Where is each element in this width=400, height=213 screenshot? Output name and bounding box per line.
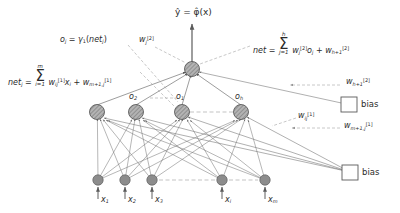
net-sigma: h Σ j=1	[279, 32, 289, 55]
output-node	[185, 62, 200, 77]
input-label-3: x3	[155, 196, 163, 204]
bias-label-hidden: bias	[362, 168, 379, 177]
hidden-node-4	[234, 105, 249, 120]
net-bw-sup: [2]	[342, 45, 349, 51]
wh12-sub: h+1	[353, 81, 363, 87]
netj-bw-sub: m+1,j	[89, 81, 104, 87]
hidden-node-1	[90, 105, 105, 120]
input-arrows	[98, 187, 265, 199]
wj2-sup: [2]	[147, 35, 154, 41]
input-label-m: xm	[268, 196, 278, 204]
hidden-to-output-connections	[97, 72, 241, 105]
bias-hidden-connections	[104, 117, 350, 172]
xi-sub: i	[230, 198, 231, 204]
netj-lhs: net	[8, 78, 21, 87]
hidden-node-label-h: oh	[235, 93, 243, 101]
ha-o-sub: j	[65, 38, 66, 44]
bias-box-output	[341, 97, 357, 112]
sigma-glyph-1: Σ	[35, 70, 44, 82]
netj-sigma: m Σ i=1	[35, 64, 45, 87]
ha-arg: net	[89, 35, 102, 44]
x1-sub: 1	[106, 198, 109, 204]
hidden-node-label-1: o1	[176, 93, 184, 101]
x3-sub: 3	[160, 198, 163, 204]
hidden-node-2	[129, 105, 144, 120]
input-label-1: x1	[101, 196, 109, 204]
xm-sub: m	[273, 198, 278, 204]
output-expression: ŷ = φ̂(x)	[175, 8, 212, 17]
bias-box-hidden	[342, 165, 358, 180]
bias-label-output: bias	[361, 100, 378, 109]
netj-w-sup: [1]	[58, 77, 65, 83]
weight-label-w-m1j-1: wm+1,j[1]	[344, 122, 373, 131]
net-j-equation: netj = m Σ i=1 wij[1]xi + wm+1,j[1]	[8, 64, 111, 87]
x2-sub: 2	[133, 198, 136, 204]
net-bw-sub: h+1	[332, 49, 342, 55]
net-lhs: net	[253, 46, 266, 55]
bias-output-connection	[199, 72, 346, 104]
neural-network-diagram: ŷ = φ̂(x) oj = γ1(netj) wj[2] netj = m Σ…	[0, 0, 400, 213]
hn2-sub: 2	[134, 95, 137, 101]
input-label-2: x2	[128, 196, 136, 204]
input-node-4	[217, 175, 227, 185]
wm1j1-sub: m+1,j	[351, 125, 366, 131]
netj-bw-sup: [1]	[104, 77, 111, 83]
input-node-1	[93, 175, 103, 185]
net-sum-bot: j=1	[279, 50, 289, 56]
net-equation: net = h Σ j=1 wj[2]oj + wh+1[2]	[253, 32, 349, 55]
hidden-activation-equation: oj = γ1(netj)	[60, 36, 107, 44]
input-node-5	[260, 175, 270, 185]
wh12-sup: [2]	[363, 77, 370, 83]
weight-label-w-j-2: wj[2]	[139, 36, 154, 45]
wij1-sup: [1]	[307, 111, 314, 117]
hidden-node-3	[175, 105, 190, 120]
input-node-2	[120, 175, 130, 185]
hidden-node-label-2: o2	[129, 93, 137, 101]
sigma-glyph-2: Σ	[279, 38, 288, 50]
netj-sum-bot: i=1	[35, 82, 45, 88]
hn1-sub: 1	[181, 95, 184, 101]
weight-label-w-h1-2: wh+1[2]	[346, 78, 370, 87]
hnh-sub: h	[240, 95, 243, 101]
input-node-3	[147, 175, 157, 185]
wm1j1-sup: [1]	[366, 121, 373, 127]
input-label-i: xi	[225, 196, 231, 204]
weight-label-w-ij-1: wij[1]	[298, 112, 314, 121]
